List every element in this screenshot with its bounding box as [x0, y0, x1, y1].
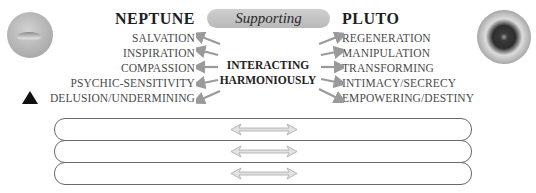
double-arrow-icon	[229, 123, 299, 136]
comparison-row	[54, 140, 472, 163]
pluto-planet-icon	[477, 10, 531, 64]
pluto-trait: REGENERATION	[342, 31, 474, 46]
pluto-trait-list: REGENERATION MANIPULATION TRANSFORMING I…	[342, 31, 474, 106]
pluto-trait: TRANSFORMING	[342, 61, 474, 76]
neptune-trait: COMPASSION	[50, 61, 195, 76]
interaction-label-line2: HARMONIOUSLY	[208, 73, 328, 88]
neptune-arrows-icon	[196, 32, 226, 107]
comparison-row	[54, 118, 472, 141]
neptune-title: NEPTUNE	[115, 10, 195, 28]
neptune-trait: PSYCHIC-SENSITIVITY	[50, 76, 195, 91]
double-arrow-icon	[229, 145, 299, 158]
comparison-row	[54, 162, 472, 185]
pluto-arrows-icon	[314, 32, 344, 107]
pluto-title: PLUTO	[342, 10, 399, 28]
neptune-trait: DELUSION/UNDERMINING	[50, 91, 195, 106]
neptune-trait-list: SALVATION INSPIRATION COMPASSION PSYCHIC…	[50, 31, 195, 106]
pluto-trait: INTIMACY/SECRECY	[342, 76, 474, 91]
neptune-trait: INSPIRATION	[50, 46, 195, 61]
neptune-planet-icon	[7, 12, 53, 58]
triangle-icon	[22, 91, 38, 104]
comparison-rows	[54, 118, 472, 185]
pluto-trait: EMPOWERING/DESTINY	[342, 91, 474, 106]
interaction-label: INTERACTING HARMONIOUSLY	[208, 58, 328, 88]
neptune-trait: SALVATION	[50, 31, 195, 46]
interaction-label-line1: INTERACTING	[208, 58, 328, 73]
double-arrow-icon	[229, 167, 299, 180]
relationship-badge: Supporting	[207, 9, 330, 28]
neptune-dark-spot	[17, 32, 41, 41]
pluto-trait: MANIPULATION	[342, 46, 474, 61]
